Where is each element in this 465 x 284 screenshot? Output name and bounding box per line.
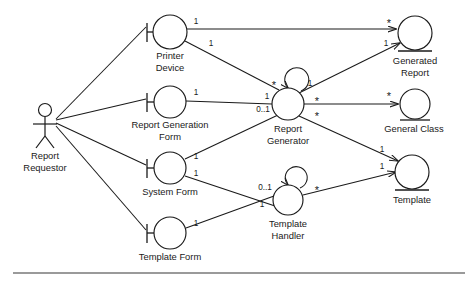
boundary-circle-printer-device-icon <box>153 15 187 49</box>
multiplicity-label: 0..1 <box>256 105 270 114</box>
multiplicity-label: 1 <box>194 219 199 228</box>
entity-circle-general-class-icon <box>400 89 430 119</box>
node-label-printer-device-line2: Device <box>156 62 185 73</box>
edge-report-generator-to-generated-report <box>297 43 400 94</box>
control-circle-template-handler-icon <box>273 185 303 215</box>
node-general-class[interactable]: General Class <box>384 89 444 134</box>
diagram-canvas: Report Requestor Printer Device Report G… <box>0 0 465 284</box>
boundary-circle-system-form-icon <box>154 152 186 184</box>
multiplicity-label: * <box>387 17 392 29</box>
node-label-generated-report-line2: Report <box>401 67 430 78</box>
node-label-system-form: System Form <box>142 186 198 197</box>
multiplicity-label: 1 <box>194 169 199 178</box>
multiplicity-label: * <box>315 95 320 107</box>
multiplicity-label: 1 <box>260 200 265 209</box>
multiplicity-label: 1 <box>209 39 214 48</box>
node-label-report-requestor-line2: Requestor <box>23 162 66 173</box>
edge-report-generation-form-to-report-generator <box>186 101 272 104</box>
node-label-template-handler-line2: Handler <box>272 230 305 241</box>
multiplicity-label: * <box>272 79 277 91</box>
node-system-form[interactable]: System Form <box>142 152 198 197</box>
node-label-template-form: Template Form <box>139 251 202 262</box>
actor-leg-left-icon <box>36 136 45 148</box>
edge-report-generator-to-template <box>299 116 398 161</box>
actor-head-icon <box>39 104 52 117</box>
node-label-generated-report-line1: Generated <box>393 55 437 66</box>
edge-printer-device-to-report-generator <box>185 41 279 90</box>
multiplicity-label: * <box>387 90 392 102</box>
uml-robustness-diagram: Report Requestor Printer Device Report G… <box>0 0 465 284</box>
edge-requestor-to-report-generation-form <box>56 99 146 120</box>
multiplicity-label: 1 <box>384 39 389 48</box>
entity-circle-generated-report-icon <box>398 16 432 50</box>
node-label-report-generation-form-line1: Report Generation <box>131 119 208 130</box>
boundary-circle-template-form-icon <box>154 217 186 249</box>
node-report-requestor[interactable]: Report Requestor <box>23 104 66 174</box>
multiplicity-label: 1 <box>380 145 385 154</box>
boundary-circle-report-generation-form-icon <box>154 86 186 118</box>
node-label-template-handler-line1: Template <box>269 218 307 229</box>
entity-circle-template-icon <box>395 155 429 189</box>
actor-leg-right-icon <box>45 136 54 148</box>
multiplicity-label: * <box>315 184 320 196</box>
node-printer-device[interactable]: Printer Device <box>147 15 187 73</box>
node-template-handler[interactable]: Template Handler <box>269 185 307 241</box>
node-label-report-generator-line2: Generator <box>267 135 309 146</box>
edge-requestor-to-printer-device <box>56 27 146 119</box>
edge-requestor-to-template-form <box>56 126 146 230</box>
node-template-form[interactable]: Template Form <box>139 217 202 262</box>
node-label-general-class: General Class <box>384 123 444 134</box>
node-label-report-requestor-line1: Report <box>31 150 60 161</box>
control-circle-report-generator-icon <box>272 88 304 120</box>
node-generated-report[interactable]: Generated Report <box>393 16 437 78</box>
multiplicity-label: 1 <box>194 17 199 26</box>
multiplicity-label: 1 <box>380 162 385 171</box>
node-template[interactable]: Template <box>393 155 431 205</box>
multiplicity-label: 1 <box>265 92 270 101</box>
multiplicity-label: 1 <box>194 152 199 161</box>
node-label-report-generator-line1: Report <box>274 123 303 134</box>
multiplicity-label: 0..1 <box>258 183 272 192</box>
multiplicity-label: 1 <box>308 79 313 88</box>
node-label-report-generation-form-line2: Form <box>159 131 181 142</box>
footer-divider <box>13 272 465 274</box>
multiplicity-label: 1 <box>194 88 199 97</box>
node-label-template: Template <box>393 194 431 205</box>
node-label-printer-device-line1: Printer <box>156 50 184 61</box>
multiplicity-label: * <box>315 110 320 122</box>
edge-layer <box>56 27 400 230</box>
